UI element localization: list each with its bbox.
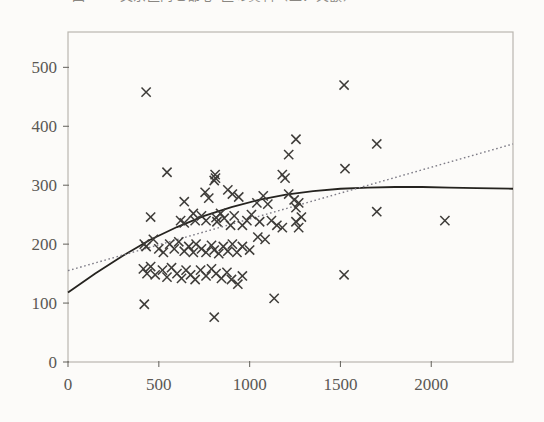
data-points — [139, 80, 450, 321]
x-tick-label: 0 — [64, 375, 73, 394]
data-point — [177, 274, 186, 283]
data-point — [189, 248, 198, 257]
figure-container: 図5-3-3 文京区内と都心5区の賃料（上：実額） 01002003004005… — [0, 0, 544, 422]
x-tick-label: 2000 — [414, 375, 448, 394]
data-point — [372, 207, 381, 216]
data-point — [162, 168, 171, 177]
y-tick-label: 100 — [32, 294, 58, 313]
data-point — [142, 88, 151, 97]
scatter-plot: 0100200300400500 0500100015002000 — [0, 0, 544, 422]
data-point — [263, 199, 272, 208]
data-point — [238, 271, 247, 280]
data-point — [284, 150, 293, 159]
data-point — [146, 212, 155, 221]
data-point — [291, 135, 300, 144]
data-point — [340, 164, 349, 173]
data-point — [189, 209, 198, 218]
data-point — [180, 197, 189, 206]
y-tick-label: 400 — [32, 117, 58, 136]
y-axis: 0100200300400500 — [32, 58, 70, 372]
x-tick-label: 500 — [146, 375, 172, 394]
data-point — [440, 216, 449, 225]
y-tick-label: 0 — [49, 353, 58, 372]
data-point — [339, 80, 348, 89]
data-point — [270, 294, 279, 303]
data-point — [294, 198, 303, 207]
x-tick-label: 1000 — [233, 375, 267, 394]
data-point — [339, 270, 348, 279]
data-point — [159, 248, 168, 257]
data-point — [297, 212, 306, 221]
data-point — [201, 271, 210, 280]
data-point — [253, 232, 262, 241]
data-point — [226, 221, 235, 230]
y-tick-label: 300 — [32, 176, 58, 195]
x-axis: 0500100015002000 — [64, 361, 449, 394]
data-point — [140, 300, 149, 309]
data-point — [191, 275, 200, 284]
y-tick-label: 200 — [32, 235, 58, 254]
data-point — [372, 139, 381, 148]
linear-fit — [68, 144, 513, 271]
data-point — [280, 174, 289, 183]
data-point — [247, 210, 256, 219]
data-point — [260, 235, 269, 244]
data-point — [242, 216, 251, 225]
data-point — [255, 217, 264, 226]
data-point — [184, 242, 193, 251]
data-point — [139, 264, 148, 273]
data-point — [233, 280, 242, 289]
data-point — [210, 313, 219, 322]
data-point — [201, 248, 210, 257]
data-point — [230, 211, 239, 220]
x-tick-label: 1500 — [323, 375, 357, 394]
data-point — [201, 216, 210, 225]
y-tick-label: 500 — [32, 58, 58, 77]
